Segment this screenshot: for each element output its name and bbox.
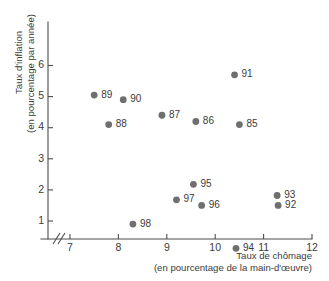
data-point: 98: [130, 218, 152, 229]
data-point-marker: [275, 202, 282, 209]
data-point: 94: [233, 242, 255, 253]
data-point-label: 88: [116, 118, 128, 129]
x-axis-subtitle: (en pourcentage de la main-d'œuvre): [154, 262, 312, 273]
data-point-label: 96: [209, 199, 221, 210]
data-point: 91: [231, 68, 253, 79]
y-axis-tick-label: 2: [38, 183, 44, 195]
data-point-label: 90: [130, 93, 142, 104]
data-point: 95: [190, 178, 212, 189]
y-axis-tick-label: 4: [38, 120, 44, 132]
data-point-marker: [159, 112, 166, 119]
data-point: 93: [274, 189, 296, 200]
data-point-label: 93: [284, 189, 296, 200]
data-point-marker: [231, 71, 238, 78]
data-point-label: 97: [183, 193, 195, 204]
data-point-marker: [91, 92, 98, 99]
data-point-label: 91: [242, 68, 254, 79]
data-point: 85: [236, 118, 258, 129]
data-point-marker: [120, 96, 127, 103]
data-point-marker: [233, 245, 240, 252]
data-point-label: 98: [140, 218, 152, 229]
data-point-marker: [192, 118, 199, 125]
data-point: 97: [173, 193, 195, 204]
data-point-marker: [274, 192, 281, 199]
data-point-label: 92: [285, 199, 297, 210]
data-point: 88: [105, 118, 127, 129]
data-point: 90: [120, 93, 142, 104]
data-point-label: 94: [243, 242, 255, 253]
data-point-marker: [236, 121, 243, 128]
y-axis-subtitle: (en pourcentage par année): [25, 14, 36, 133]
x-axis-tick-label: 8: [115, 241, 121, 253]
data-point-label: 85: [246, 118, 258, 129]
data-point-marker: [105, 121, 112, 128]
y-axis-tick-label: 5: [38, 89, 44, 101]
data-point-label: 86: [203, 115, 215, 126]
x-axis-tick-label: 10: [209, 241, 221, 253]
data-point: 92: [275, 199, 297, 210]
data-point: 86: [192, 115, 214, 126]
data-point: 96: [198, 199, 220, 210]
data-point-label: 87: [169, 109, 181, 120]
scatter-chart: 123456789101112Taux d'inflation(en pourc…: [0, 0, 329, 281]
y-axis-tick-label: 6: [38, 58, 44, 70]
data-point-marker: [173, 196, 180, 203]
data-point-label: 89: [101, 89, 113, 100]
y-axis-title: Taux d'inflation: [13, 31, 24, 94]
data-point-label: 95: [200, 178, 212, 189]
x-axis-tick-label: 9: [164, 241, 170, 253]
data-point: 89: [91, 89, 113, 100]
data-point: 87: [159, 109, 181, 120]
data-point-marker: [190, 181, 197, 188]
y-axis-tick-label: 1: [38, 214, 44, 226]
data-point-marker: [198, 202, 205, 209]
plot-area: 123456789101112Taux d'inflation(en pourc…: [0, 0, 329, 281]
y-axis-tick-label: 3: [38, 152, 44, 164]
x-axis-tick-label: 7: [67, 241, 73, 253]
data-point-marker: [130, 221, 137, 228]
